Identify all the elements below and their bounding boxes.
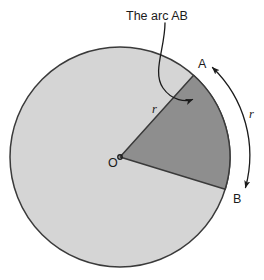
- diagram-canvas: The arc AB A B O r r: [0, 0, 264, 280]
- circle-sector-figure: The arc AB A B O r r: [0, 0, 264, 280]
- label-point-a: A: [198, 57, 207, 71]
- label-radius-outer: r: [249, 107, 254, 121]
- caption-the-arc-ab: The arc AB: [126, 9, 188, 23]
- label-radius-inner: r: [152, 102, 157, 116]
- label-center-o: O: [108, 156, 118, 170]
- label-point-b: B: [233, 192, 241, 206]
